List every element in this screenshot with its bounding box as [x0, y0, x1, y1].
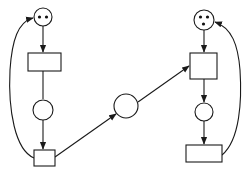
transition-t1 — [28, 53, 61, 71]
transition-t2 — [34, 150, 55, 166]
arc-t2-p1 — [10, 18, 34, 158]
place-p1 — [34, 8, 52, 26]
petri-net-diagram — [0, 0, 252, 172]
arc-t4-p4 — [215, 22, 241, 155]
place-p3 — [114, 94, 138, 118]
place-p5 — [195, 103, 213, 121]
arc-t2-p3 — [55, 114, 116, 157]
token-icon — [38, 15, 41, 18]
place-p4 — [194, 10, 214, 30]
token-icon — [45, 15, 48, 18]
transition-t3 — [190, 53, 217, 79]
arc-p3-t3 — [138, 66, 189, 102]
transition-t4 — [186, 145, 222, 162]
token-icon — [202, 22, 205, 25]
place-p2 — [33, 100, 53, 120]
token-icon — [206, 15, 209, 18]
arcs — [10, 18, 241, 158]
token-icon — [199, 15, 202, 18]
